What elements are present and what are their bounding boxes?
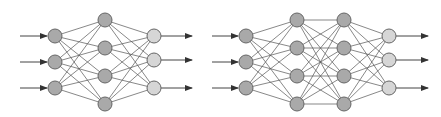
input-neuron: [48, 29, 62, 43]
connections: [246, 20, 389, 104]
connection-edge: [105, 60, 154, 76]
shallow-network: [20, 13, 192, 111]
hidden-neuron: [290, 41, 304, 55]
deep-network: [212, 13, 428, 111]
hidden-neuron: [337, 41, 351, 55]
neurons: [48, 13, 161, 111]
connection-edge: [55, 48, 105, 62]
connection-edge: [246, 20, 297, 36]
input-neuron: [239, 55, 253, 69]
input-neuron: [48, 81, 62, 95]
output-neuron: [382, 29, 396, 43]
hidden-neuron: [98, 97, 112, 111]
output-neuron: [147, 29, 161, 43]
hidden-neuron: [98, 41, 112, 55]
output-neuron: [147, 53, 161, 67]
connection-edge: [105, 88, 154, 104]
input-neuron: [48, 55, 62, 69]
connections: [55, 20, 154, 104]
connection-edge: [105, 20, 154, 36]
neurons: [239, 13, 396, 111]
connection-edge: [55, 20, 105, 36]
hidden-neuron: [290, 69, 304, 83]
input-neuron: [239, 81, 253, 95]
connection-edge: [55, 88, 105, 104]
hidden-neuron: [98, 13, 112, 27]
hidden-neuron: [337, 13, 351, 27]
connection-edge: [246, 88, 297, 104]
output-neuron: [147, 81, 161, 95]
input-neuron: [239, 29, 253, 43]
hidden-neuron: [290, 13, 304, 27]
neural-network-diagram: [0, 0, 441, 117]
hidden-neuron: [98, 69, 112, 83]
connection-edge: [246, 62, 297, 76]
output-neuron: [382, 53, 396, 67]
connection-edge: [246, 48, 297, 62]
hidden-neuron: [337, 97, 351, 111]
output-neuron: [382, 81, 396, 95]
hidden-neuron: [290, 97, 304, 111]
connection-edge: [55, 62, 105, 76]
hidden-neuron: [337, 69, 351, 83]
